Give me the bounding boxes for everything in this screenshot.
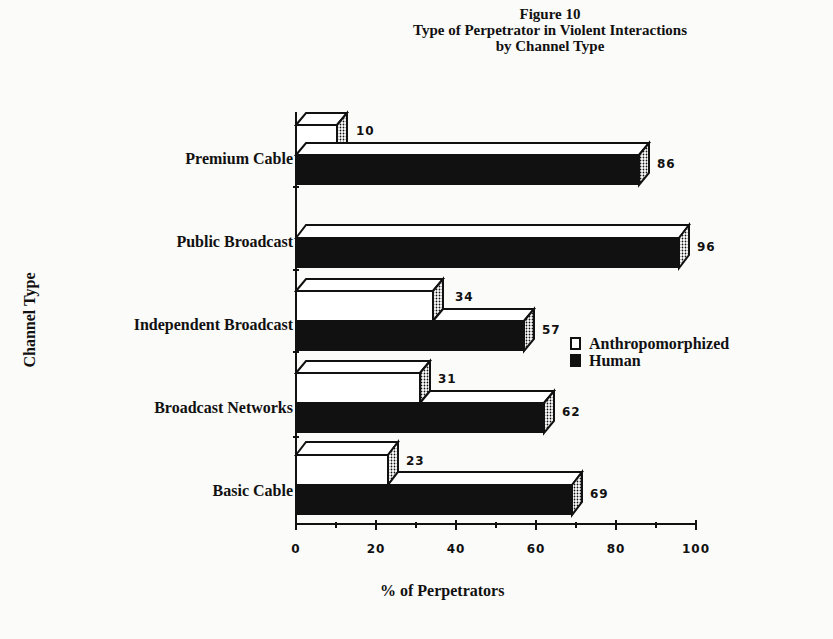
bar-basic-cable-anthropomorphized [296,442,398,485]
bar-independent-broadcast-anthropomorphized [296,279,443,321]
x-tick-label: 40 [447,542,466,556]
legend-item-human: Human [570,352,729,369]
x-axis-label: % of Perpetrators [380,582,504,600]
legend-item-anthropomorphized: Anthropomorphized [570,335,729,352]
legend-label: Human [589,352,641,369]
x-tick-label: 60 [527,542,546,556]
x-tick-label: 0 [291,542,300,556]
legend-label: Anthropomorphized [589,335,729,352]
value-label: 31 [438,372,457,386]
bar-premium-cable-human [296,143,649,185]
bar-public-broadcast-human [296,225,689,268]
value-label: 34 [455,290,474,304]
value-label: 23 [406,454,425,468]
x-tick-label: 20 [367,542,386,556]
black-swatch-icon [570,354,581,367]
white-swatch-icon [570,337,581,350]
value-label: 57 [542,323,561,337]
value-label: 62 [562,405,581,419]
value-label: 96 [697,240,716,254]
legend: Anthropomorphized Human [570,335,729,369]
value-label: 86 [657,157,676,171]
value-label: 69 [590,487,609,501]
value-label: 10 [356,124,375,138]
x-tick-label: 100 [682,542,710,556]
bar-broadcast-networks-anthropomorphized [296,361,430,403]
x-tick-label: 80 [607,542,626,556]
